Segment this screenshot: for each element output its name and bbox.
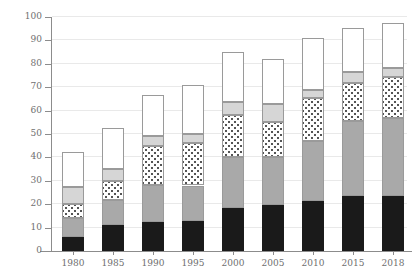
y-tick-label: 10 — [31, 223, 42, 232]
x-tick-label: 2005 — [253, 258, 293, 268]
bar-1995[interactable] — [182, 85, 204, 251]
x-tick-label: 1985 — [93, 258, 133, 268]
bar-segment-segment-3 — [182, 143, 204, 185]
bar-segment-segment-1 — [262, 205, 284, 251]
y-tick-mark — [45, 181, 51, 182]
x-tick-mark — [73, 251, 74, 255]
bar-segment-segment-5 — [182, 85, 204, 134]
bar-segment-segment-5 — [142, 95, 164, 136]
bar-segment-segment-2 — [222, 157, 244, 207]
bar-2015[interactable] — [342, 28, 364, 251]
bar-segment-segment-3 — [302, 98, 324, 141]
bar-segment-segment-3 — [62, 204, 84, 218]
bar-segment-segment-4 — [342, 72, 364, 83]
bar-2018[interactable] — [382, 23, 404, 251]
bar-segment-segment-4 — [382, 68, 404, 76]
x-tick-label: 1990 — [133, 258, 173, 268]
bar-2000[interactable] — [222, 52, 244, 251]
bar-segment-segment-4 — [102, 169, 124, 181]
y-tick-label: 100 — [25, 12, 42, 21]
bar-segment-segment-3 — [222, 115, 244, 157]
y-tick-label: 60 — [31, 106, 42, 115]
bar-segment-segment-5 — [222, 52, 244, 102]
y-tick-mark — [45, 111, 51, 112]
bar-segment-segment-5 — [62, 152, 84, 187]
bar-segment-segment-1 — [62, 237, 84, 251]
y-tick-mark — [45, 40, 51, 41]
bar-segment-segment-1 — [102, 225, 124, 251]
bar-segment-segment-5 — [102, 128, 124, 169]
x-tick-label: 1980 — [53, 258, 93, 268]
x-tick-mark — [313, 251, 314, 255]
bar-segment-segment-5 — [302, 38, 324, 89]
x-axis-line — [40, 251, 412, 252]
bar-segment-segment-4 — [302, 90, 324, 98]
x-tick-mark — [393, 251, 394, 255]
y-tick-label: 20 — [31, 199, 42, 208]
bar-segment-segment-4 — [142, 136, 164, 145]
bar-segment-segment-2 — [342, 121, 364, 196]
gridline — [52, 16, 407, 17]
x-tick-label: 1995 — [173, 258, 213, 268]
bar-segment-segment-5 — [342, 28, 364, 72]
y-tick-label: 80 — [31, 59, 42, 68]
bar-segment-segment-2 — [382, 118, 404, 196]
bar-segment-segment-1 — [342, 196, 364, 251]
x-tick-mark — [273, 251, 274, 255]
y-tick-label: 40 — [31, 152, 42, 161]
bar-segment-segment-2 — [142, 185, 164, 221]
bar-segment-segment-2 — [262, 157, 284, 205]
y-tick-label: 30 — [31, 176, 42, 185]
x-tick-mark — [193, 251, 194, 255]
bar-segment-segment-3 — [342, 83, 364, 122]
bar-segment-segment-1 — [222, 208, 244, 251]
bar-segment-segment-2 — [302, 141, 324, 201]
x-tick-mark — [353, 251, 354, 255]
bar-segment-segment-4 — [222, 102, 244, 115]
x-tick-mark — [233, 251, 234, 255]
y-tick-mark — [45, 87, 51, 88]
bar-segment-segment-5 — [382, 23, 404, 69]
bar-segment-segment-2 — [62, 218, 84, 237]
bar-segment-segment-3 — [102, 181, 124, 200]
bar-segment-segment-4 — [62, 187, 84, 205]
bar-segment-segment-4 — [182, 134, 204, 143]
bar-segment-segment-1 — [382, 196, 404, 251]
y-tick-mark — [45, 204, 51, 205]
bar-segment-segment-3 — [262, 122, 284, 157]
y-tick-mark — [45, 228, 51, 229]
bar-1980[interactable] — [62, 152, 84, 251]
y-tick-mark — [45, 17, 51, 18]
x-tick-label: 2018 — [373, 258, 413, 268]
y-tick-mark — [45, 157, 51, 158]
stacked-bar-chart: 0102030405060708090100 19801985199019952… — [0, 0, 418, 280]
bar-segment-segment-3 — [142, 146, 164, 186]
bar-segment-segment-1 — [142, 222, 164, 251]
y-axis-line — [51, 17, 52, 251]
bar-2005[interactable] — [262, 59, 284, 251]
y-tick-label: 70 — [31, 82, 42, 91]
bar-1990[interactable] — [142, 95, 164, 251]
bar-segment-segment-4 — [262, 104, 284, 123]
x-tick-mark — [153, 251, 154, 255]
x-tick-label: 2010 — [293, 258, 333, 268]
y-tick-label: 0 — [36, 246, 42, 255]
x-tick-label: 2000 — [213, 258, 253, 268]
y-tick-label: 50 — [31, 129, 42, 138]
x-tick-label: 2015 — [333, 258, 373, 268]
y-tick-mark — [45, 134, 51, 135]
bar-segment-segment-1 — [182, 221, 204, 251]
plot-area — [52, 17, 407, 251]
bar-2010[interactable] — [302, 38, 324, 251]
y-tick-label: 90 — [31, 35, 42, 44]
bar-segment-segment-2 — [182, 186, 204, 221]
y-tick-mark — [45, 251, 51, 252]
x-tick-mark — [113, 251, 114, 255]
bar-1985[interactable] — [102, 128, 124, 251]
bar-segment-segment-2 — [102, 200, 124, 226]
bar-segment-segment-3 — [382, 77, 404, 118]
bar-segment-segment-1 — [302, 201, 324, 251]
y-tick-mark — [45, 64, 51, 65]
bar-segment-segment-5 — [262, 59, 284, 103]
